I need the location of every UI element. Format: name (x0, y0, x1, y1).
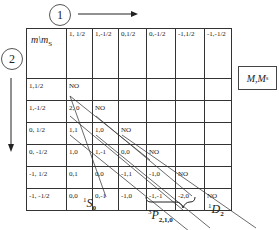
row-header: -1, -1/2 (27, 189, 67, 211)
table-row: 0, 1/2 1,1 1,0 NO (27, 123, 232, 145)
cell: 1,-1 (93, 145, 119, 167)
term-1s0-label: 1S0 (83, 196, 96, 212)
row-header: -1, 1/2 (27, 167, 67, 189)
column-header: 0,1/2 (119, 29, 147, 79)
cell (205, 145, 232, 167)
column-header: 1,-1/2 (93, 29, 119, 79)
cell (205, 123, 232, 145)
cell (205, 101, 232, 123)
cell (176, 145, 205, 167)
column-header: -1,1/2 (176, 29, 205, 79)
cell: 1,0 (67, 145, 93, 167)
cell: 0,-1 (93, 189, 119, 211)
cell (205, 167, 232, 189)
cell (176, 79, 205, 101)
legend-sep: ,M (255, 73, 266, 84)
table-row: 1,1/2 NO (27, 79, 232, 101)
cell: NO (147, 145, 176, 167)
step-1-label: 1 (57, 8, 63, 23)
cell: -1,1 (119, 167, 147, 189)
cell (93, 79, 119, 101)
row-header: 1,-1/2 (27, 101, 67, 123)
microstate-table: m\mS 1, 1/2 1,-1/2 0,1/2 0,-1/2 -1,1/2 -… (26, 28, 232, 211)
ml-ms-legend-box: M,Ms (238, 66, 277, 90)
cell: 0,0 (119, 145, 147, 167)
table-row: 0, -1/2 1,0 1,-1 0,0 NO (27, 145, 232, 167)
table-row: -1, 1/2 0,1 0,0 -1,1 -1,0 NO (27, 167, 232, 189)
column-header: 1, 1/2 (67, 29, 93, 79)
step-2-circle: 2 (1, 48, 23, 70)
term-1d2-label: 1D2 (208, 202, 224, 218)
cell (176, 101, 205, 123)
row-header: 0, -1/2 (27, 145, 67, 167)
cell: -2,0 (176, 189, 205, 211)
cell (119, 101, 147, 123)
cell (147, 79, 176, 101)
column-header: 0,-1/2 (147, 29, 176, 79)
cell: -1,0 (147, 167, 176, 189)
step-1-circle: 1 (49, 4, 71, 26)
cell (176, 123, 205, 145)
cell: NO (119, 123, 147, 145)
cell (147, 123, 176, 145)
cell: 0,0 (93, 167, 119, 189)
cell: NO (93, 101, 119, 123)
cell: 0,1 (67, 167, 93, 189)
cell: 1,0 (93, 123, 119, 145)
cell (119, 79, 147, 101)
column-header: -1,-1/2 (205, 29, 232, 79)
term-3p-label: 3P2,1,0 (148, 208, 173, 224)
legend-sub: s (266, 75, 268, 81)
step-2-label: 2 (9, 52, 15, 67)
table-row: -1, -1/2 0,0 0,-1 -1,0 -1,-1 -2,0 NO (27, 189, 232, 211)
row-header: 1,1/2 (27, 79, 67, 101)
cell (147, 101, 176, 123)
row-header: 0, 1/2 (27, 123, 67, 145)
cell: 2, 0 (67, 101, 93, 123)
cell: NO (176, 167, 205, 189)
cell: -1,0 (119, 189, 147, 211)
cell (205, 79, 232, 101)
corner-header: m\mS (27, 29, 67, 79)
legend-main: M (247, 73, 255, 84)
header-row: m\mS 1, 1/2 1,-1/2 0,1/2 0,-1/2 -1,1/2 -… (27, 29, 232, 79)
cell: 1,1 (67, 123, 93, 145)
table-row: 1,-1/2 2, 0 NO (27, 101, 232, 123)
cell: NO (67, 79, 93, 101)
